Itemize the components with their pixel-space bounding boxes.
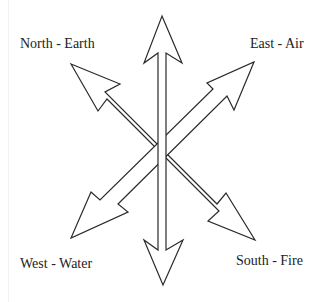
label-north-earth: North - Earth bbox=[20, 36, 95, 52]
diagram: North - Earth East - Air West - Water So… bbox=[0, 0, 324, 302]
label-west-water: West - Water bbox=[20, 256, 92, 272]
label-south-fire: South - Fire bbox=[236, 253, 303, 269]
label-east-air: East - Air bbox=[250, 36, 304, 52]
